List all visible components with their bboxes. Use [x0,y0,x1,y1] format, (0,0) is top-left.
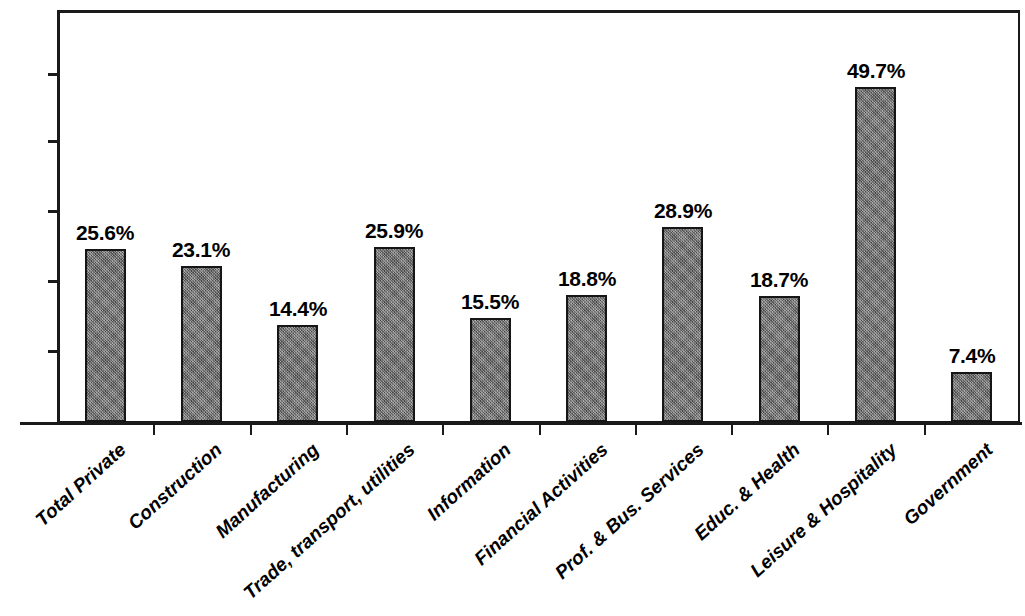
bar-value-label: 7.4% [917,344,1025,368]
x-axis-tick [250,424,252,435]
y-axis-tick [48,210,59,213]
bar-value-label: 23.1% [146,238,256,262]
bar-value-label: 28.9% [628,199,738,223]
y-axis-tick [48,280,59,283]
bar-value-label: 18.8% [532,267,642,291]
x-axis-tick [442,424,444,435]
bar-value-label: 25.9% [339,219,449,243]
x-axis-tick [827,424,829,435]
x-axis-tick [539,424,541,435]
bar-chart: 25.6%23.1%14.4%25.9%15.5%18.8%28.9%18.7%… [0,0,1025,616]
x-axis-tick [346,424,348,435]
x-axis-tick [153,424,155,435]
y-axis-tick [48,350,59,353]
bar-value-label: 25.6% [50,221,160,245]
y-axis-tick [48,73,59,76]
x-axis-tick [924,424,926,435]
x-axis-baseline [20,422,1022,425]
x-axis-tick [635,424,637,435]
bar-value-label: 14.4% [243,297,353,321]
y-axis-tick [48,140,59,143]
x-axis-tick [731,424,733,435]
bar-value-label: 49.7% [821,59,931,83]
bar-value-label: 15.5% [435,290,545,314]
bar-value-label: 18.7% [724,268,834,292]
